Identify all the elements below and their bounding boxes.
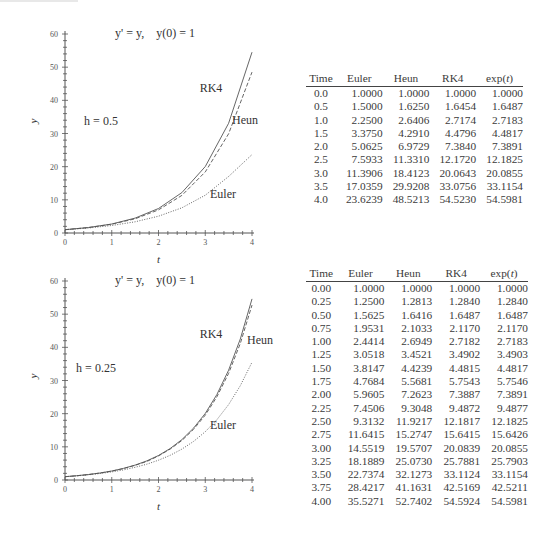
table-row: 3.2518.188925.073025.788125.7903 [306,455,528,468]
table-cell: 2.0 [306,140,336,153]
y-tick-label: 0 [54,476,58,485]
table-cell: 54.5981 [476,193,523,206]
table-cell: 1.00 [306,335,337,348]
table-row: 1.253.05183.45213.49023.4903 [306,348,528,361]
table-cell: 5.7543 [432,375,480,388]
table-cell: 3.8147 [337,362,385,375]
table-row: 1.002.44142.69492.71822.7183 [306,335,528,348]
table-row: 4.023.623948.521354.523054.5981 [306,193,523,206]
table-cell: 11.3310 [383,153,430,166]
table-cell: 15.2747 [384,428,432,441]
table-cell: 15.6426 [480,428,528,441]
y-tick-label: 60 [50,277,58,286]
table-cell: 2.7183 [476,114,523,127]
results-table-h-0-25: TimeEulerHeunRK4exp(t)0.001.00001.00001.… [306,266,528,508]
table-cell: 9.4872 [432,402,480,415]
x-axis-label: t [157,500,161,512]
x-tick-label: 0 [63,485,67,494]
table-cell: 2.4414 [337,335,385,348]
table-cell: 32.1273 [384,468,432,481]
table-cell: 4.0 [306,193,336,206]
table-cell: 7.3891 [476,140,523,153]
table-cell: 1.6487 [476,100,523,113]
table-cell: 23.6239 [336,193,383,206]
chart-title: y' = y, y(0) = 1 [115,273,195,287]
table-cell: 18.1889 [337,455,385,468]
table-cell: 9.3048 [384,402,432,415]
step-size-annotation: h = 0.25 [76,361,116,375]
table-cell: 5.9605 [337,388,385,401]
table-cell: 12.1825 [480,415,528,428]
table-cell: 5.5681 [384,375,432,388]
table-cell: 4.00 [306,495,337,508]
table-cell: 1.75 [306,375,337,388]
table-cell: 14.5519 [337,442,385,455]
table-cell: 52.7402 [384,495,432,508]
table-cell: 1.0000 [480,282,528,296]
table-cell: 1.6416 [384,309,432,322]
column-header-euler: Euler [336,71,383,87]
table-cell: 2.7174 [429,114,476,127]
table-cell: 54.5230 [429,193,476,206]
table-cell: 42.5169 [432,481,480,494]
table-cell: 4.7684 [337,375,385,388]
table-cell: 1.0000 [432,282,480,296]
y-tick-label: 30 [50,377,58,386]
table-row: 0.51.50001.62501.64541.6487 [306,100,523,113]
series-rk4 [65,299,252,477]
table-cell: 1.6487 [480,309,528,322]
table-cell: 7.3840 [429,140,476,153]
table-cell: 1.25 [306,348,337,361]
table-cell: 29.9208 [383,180,430,193]
table-cell: 28.4217 [337,481,385,494]
table-cell: 4.4817 [476,127,523,140]
table-cell: 2.1170 [432,322,480,335]
series-label-rk4: RK4 [200,327,223,341]
table-cell: 3.4903 [480,348,528,361]
results-table-h-0-5: TimeEulerHeunRK4exp(t)0.01.00001.00001.0… [306,71,523,207]
column-header-euler: Euler [337,266,385,282]
table-cell: 20.0643 [429,167,476,180]
table-cell: 7.4506 [337,402,385,415]
table-row: 3.517.035929.920833.075633.1154 [306,180,523,193]
table-cell: 54.5924 [432,495,480,508]
table-row: 1.53.37504.29104.47964.4817 [306,127,523,140]
table-row: 3.0014.551919.570720.083920.0855 [306,442,528,455]
table-row: 0.01.00001.00001.00001.0000 [306,87,523,101]
table-cell: 2.50 [306,415,337,428]
table-cell: 1.5 [306,127,336,140]
table-cell: 11.6415 [337,428,385,441]
table-cell: 0.00 [306,282,337,296]
table-cell: 1.5000 [336,100,383,113]
x-tick-label: 3 [203,485,207,494]
table-cell: 0.25 [306,295,337,308]
table-cell: 4.4796 [429,127,476,140]
table-cell: 2.6949 [384,335,432,348]
table-cell: 12.1720 [429,153,476,166]
table-row: 2.509.313211.921712.181712.1825 [306,415,528,428]
table-cell: 9.3132 [337,415,385,428]
table-cell: 3.5 [306,180,336,193]
table-row: 4.0035.527152.740254.592454.5981 [306,495,528,508]
table-cell: 4.4239 [384,362,432,375]
table-cell: 4.2910 [383,127,430,140]
table-cell: 3.4902 [432,348,480,361]
table-cell: 48.5213 [383,193,430,206]
column-header-exp: exp(t) [476,71,523,87]
table-row: 2.7511.641515.274715.641515.6426 [306,428,528,441]
table-cell: 4.4815 [432,362,480,375]
x-tick-label: 1 [110,485,114,494]
table-cell: 19.5707 [384,442,432,455]
table-cell: 7.5933 [336,153,383,166]
table-cell: 33.0756 [429,180,476,193]
y-tick-label: 20 [50,410,58,419]
column-header-rk4: RK4 [429,71,476,87]
table-cell: 1.0000 [429,87,476,101]
table-cell: 1.6250 [383,100,430,113]
table-row: 0.501.56251.64161.64871.6487 [306,309,528,322]
table-cell: 17.0359 [336,180,383,193]
table-cell: 1.6454 [429,100,476,113]
table-cell: 20.0839 [432,442,480,455]
table-cell: 1.0000 [384,282,432,296]
table-cell: 2.7183 [480,335,528,348]
